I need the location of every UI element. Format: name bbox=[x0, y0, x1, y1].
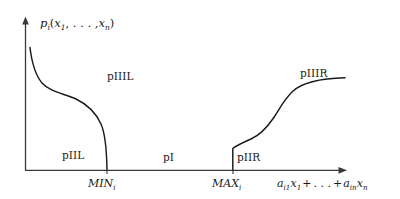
x-label-plus-second: + bbox=[332, 177, 343, 190]
x-label-an-sub: in bbox=[350, 183, 357, 192]
x-label-plus-first: + bbox=[301, 177, 312, 190]
x-axis bbox=[25, 167, 347, 174]
tick-label-max-text: MAX bbox=[212, 177, 239, 190]
x-label-a1-sub: i1 bbox=[284, 183, 291, 192]
region-label-p-three-right: pIIIR bbox=[300, 68, 328, 79]
x-label-xn-sub: n bbox=[363, 183, 368, 192]
x-label-a1: a bbox=[277, 177, 284, 190]
x-axis-label: ai1x1+. . .+ainxn bbox=[277, 178, 368, 189]
tick-label-min: MINi bbox=[88, 178, 116, 189]
region-label-p-one: pI bbox=[163, 152, 174, 163]
x-label-x1-sub: 1 bbox=[297, 183, 302, 192]
tick-label-min-sub: i bbox=[113, 183, 115, 192]
region-label-p-three-left: pIIIL bbox=[107, 71, 134, 82]
y-label-xn-sub: n bbox=[105, 23, 110, 32]
x-label-xn: x bbox=[357, 177, 363, 190]
y-axis bbox=[22, 17, 29, 171]
y-label-close: ) bbox=[110, 16, 115, 30]
x-axis-arrow-icon bbox=[339, 167, 348, 174]
tick-label-max: MAXi bbox=[212, 178, 241, 189]
y-label-xn: x bbox=[98, 16, 105, 30]
penalty-function-figure: pi(x1, . . . ,xn) pIIIL pIIL pI pIIR pII… bbox=[0, 0, 400, 199]
y-label-ellipsis: , . . . , bbox=[66, 16, 99, 30]
x-label-an: a bbox=[343, 177, 350, 190]
y-axis-arrow-icon bbox=[22, 17, 29, 25]
y-label-p-sub: i bbox=[47, 23, 49, 32]
region-label-p-two-right: pIIR bbox=[237, 152, 260, 163]
tick-label-min-text: MIN bbox=[88, 177, 113, 190]
region-label-p-two-left: pIIL bbox=[62, 150, 84, 161]
y-axis-label: pi(x1, . . . ,xn) bbox=[40, 18, 114, 30]
y-label-x1-sub: 1 bbox=[61, 23, 66, 32]
x-label-ellipsis: . . . bbox=[312, 177, 331, 190]
x-label-x1: x bbox=[290, 177, 296, 190]
y-label-x1: x bbox=[54, 16, 61, 30]
